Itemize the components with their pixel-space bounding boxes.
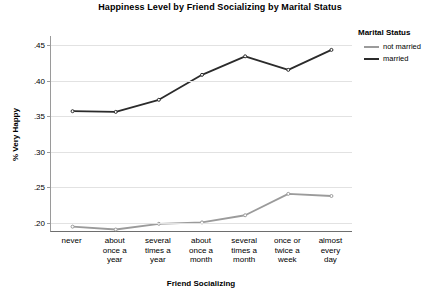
legend-line-icon — [364, 58, 379, 60]
data-point — [71, 225, 74, 228]
y-axis-tick-label: .35 — [34, 112, 45, 121]
data-point — [287, 68, 290, 71]
data-point — [244, 55, 247, 58]
legend-entries: not marriedmarried — [358, 42, 440, 63]
y-axis-tick-label: .25 — [34, 183, 45, 192]
data-point — [330, 48, 333, 51]
chart-title: Happiness Level by Friend Socializing by… — [0, 2, 440, 12]
y-axis-tick-label: .45 — [34, 40, 45, 49]
gridline — [51, 81, 352, 82]
legend-item[interactable]: married — [358, 54, 440, 63]
x-axis-title: Friend Socializing — [50, 279, 352, 288]
data-point — [244, 214, 247, 217]
gridline — [51, 152, 352, 153]
y-axis-tick-label: .40 — [34, 76, 45, 85]
chart-container: Happiness Level by Friend Socializing by… — [0, 0, 440, 293]
gridline — [51, 187, 352, 188]
y-axis-title: % Very Happy — [8, 36, 22, 232]
series-layer — [51, 36, 353, 232]
y-axis-tick — [47, 187, 51, 188]
gridline — [51, 223, 352, 224]
legend-title: Marital Status — [358, 28, 440, 37]
gridline — [51, 116, 352, 117]
y-axis-title-text: % Very Happy — [11, 108, 20, 161]
plot-area: .20.25.30.35.40.45 — [50, 36, 352, 232]
legend-item-label: not married — [383, 42, 421, 51]
data-point — [114, 110, 117, 113]
data-point — [330, 195, 333, 198]
x-axis-tick-label: severaltimes ayear — [135, 236, 181, 265]
y-axis-tick — [47, 152, 51, 153]
y-axis-tick — [47, 81, 51, 82]
data-point — [71, 110, 74, 113]
legend-line-icon — [364, 46, 379, 48]
y-axis-tick — [47, 45, 51, 46]
x-axis-tick-labels: neveraboutonce ayearseveraltimes ayearab… — [50, 236, 352, 278]
x-axis-tick-label: aboutonce amonth — [178, 236, 224, 265]
legend-item-label: married — [383, 54, 408, 63]
data-point — [201, 73, 204, 76]
x-axis-tick-label: once ortwice aweek — [264, 236, 310, 265]
x-axis-tick-label: aboutonce ayear — [92, 236, 138, 265]
legend: Marital Status not marriedmarried — [358, 28, 440, 66]
x-axis-tick-label: almosteveryday — [307, 236, 353, 265]
x-axis-tick-label: never — [49, 236, 95, 246]
data-point — [287, 192, 290, 195]
legend-item[interactable]: not married — [358, 42, 440, 51]
y-axis-tick — [47, 116, 51, 117]
y-axis-tick — [47, 223, 51, 224]
data-point — [157, 98, 160, 101]
data-point — [114, 228, 117, 231]
y-axis-tick-label: .30 — [34, 147, 45, 156]
y-axis-tick-label: .20 — [34, 219, 45, 228]
x-axis-tick-label: severaltimes amonth — [221, 236, 267, 265]
gridline — [51, 45, 352, 46]
